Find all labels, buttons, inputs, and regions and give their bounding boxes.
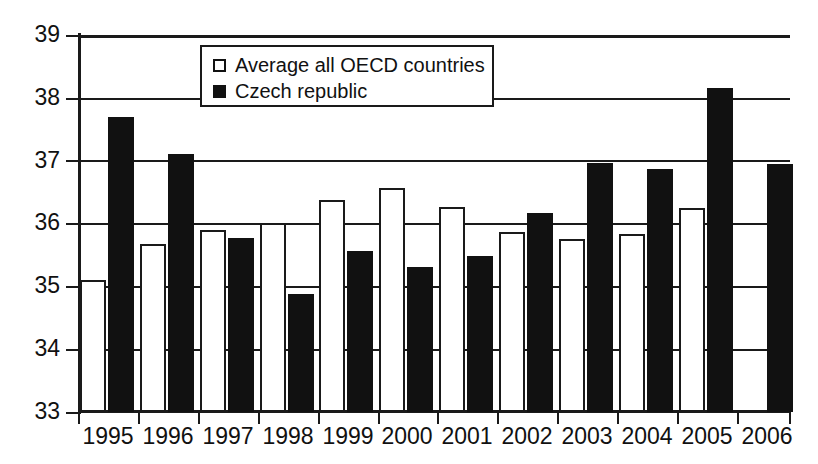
legend-label-oecd: Average all OECD countries <box>235 55 485 75</box>
bar-1997-oecd <box>200 230 226 412</box>
x-axis-label-2000: 2000 <box>377 424 437 449</box>
bar-2006-czech <box>767 164 793 412</box>
x-axis-label-1996: 1996 <box>138 424 198 449</box>
y-axis-label-36: 36 <box>14 211 60 234</box>
y-tick-38 <box>66 98 78 100</box>
x-axis-label-2002: 2002 <box>497 424 557 449</box>
x-tick-1 <box>138 412 140 424</box>
x-axis-label-2006: 2006 <box>737 424 797 449</box>
bar-1998-oecd <box>260 223 286 412</box>
bar-2001-oecd <box>439 207 465 412</box>
white-square-icon <box>213 59 226 72</box>
x-axis-label-1999: 1999 <box>318 424 378 449</box>
y-axis-label-39: 39 <box>14 23 60 46</box>
x-axis-label-1998: 1998 <box>258 424 318 449</box>
bar-1995-czech <box>108 117 134 412</box>
y-tick-36 <box>66 223 78 225</box>
x-tick-2 <box>198 412 200 424</box>
bar-1999-oecd <box>319 200 345 412</box>
y-axis-label-37: 37 <box>14 149 60 172</box>
x-tick-7 <box>497 412 499 424</box>
bar-2002-czech <box>527 213 553 412</box>
bar-chart: 39 38 37 36 35 34 33 <box>0 0 818 464</box>
x-axis-label-1997: 1997 <box>198 424 258 449</box>
x-tick-8 <box>557 412 559 424</box>
bar-2005-czech <box>707 88 733 412</box>
bar-2000-oecd <box>379 188 405 412</box>
legend-entry-czech: Czech republic <box>213 78 492 104</box>
y-axis-label-35: 35 <box>14 274 60 297</box>
bar-1998-czech <box>288 294 314 412</box>
x-axis-label-2003: 2003 <box>557 424 617 449</box>
y-tick-33 <box>66 412 78 414</box>
bar-1997-czech <box>228 238 254 412</box>
x-tick-4 <box>318 412 320 424</box>
gridline-39 <box>78 35 790 38</box>
x-tick-0 <box>78 412 80 424</box>
x-tick-11 <box>737 412 739 424</box>
chart-legend: Average all OECD countries Czech republi… <box>200 45 494 107</box>
y-axis-label-33: 33 <box>14 400 60 423</box>
bar-2004-czech <box>647 169 673 412</box>
x-tick-6 <box>437 412 439 424</box>
y-tick-37 <box>66 160 78 162</box>
y-tick-39 <box>66 35 78 37</box>
bar-2003-oecd <box>559 239 585 412</box>
bar-1996-czech <box>168 154 194 412</box>
x-axis-label-2004: 2004 <box>617 424 677 449</box>
x-tick-5 <box>378 412 380 424</box>
y-axis-label-34: 34 <box>14 337 60 360</box>
legend-entry-oecd: Average all OECD countries <box>213 52 492 78</box>
x-axis-label-1995: 1995 <box>78 424 138 449</box>
x-tick-9 <box>617 412 619 424</box>
bar-2003-czech <box>587 163 613 412</box>
black-square-icon <box>213 85 226 98</box>
bar-1999-czech <box>347 251 373 412</box>
bar-2000-czech <box>407 267 433 412</box>
x-tick-3 <box>258 412 260 424</box>
bar-1995-oecd <box>80 280 106 412</box>
bar-2002-oecd <box>499 232 525 412</box>
y-tick-35 <box>66 286 78 288</box>
bar-2005-oecd <box>679 208 705 412</box>
y-axis-label-38: 38 <box>14 86 60 109</box>
y-tick-34 <box>66 349 78 351</box>
legend-label-czech: Czech republic <box>235 81 367 101</box>
bar-2001-czech <box>467 256 493 412</box>
x-axis-label-2005: 2005 <box>677 424 737 449</box>
bar-2004-oecd <box>619 234 645 412</box>
x-tick-10 <box>677 412 679 424</box>
bar-1996-oecd <box>140 244 166 412</box>
x-axis-label-2001: 2001 <box>437 424 497 449</box>
